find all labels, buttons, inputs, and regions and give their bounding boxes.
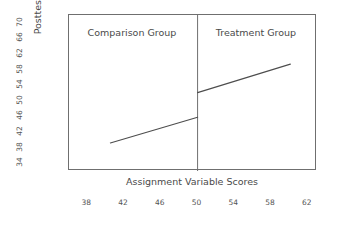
x-tick-label: 58 (255, 198, 285, 207)
x-tick-label: 54 (218, 198, 248, 207)
x-tick-label: 46 (145, 198, 175, 207)
x-tick-label: 38 (71, 198, 101, 207)
x-tick-label: 42 (108, 198, 138, 207)
regression-discontinuity-chart: 70 66 62 58 54 50 46 42 38 34 Posttest S… (0, 0, 338, 227)
x-axis-tick-labels: 38 42 46 50 54 58 62 (0, 0, 338, 227)
x-tick-label: 62 (292, 198, 322, 207)
x-tick-label: 50 (182, 198, 212, 207)
